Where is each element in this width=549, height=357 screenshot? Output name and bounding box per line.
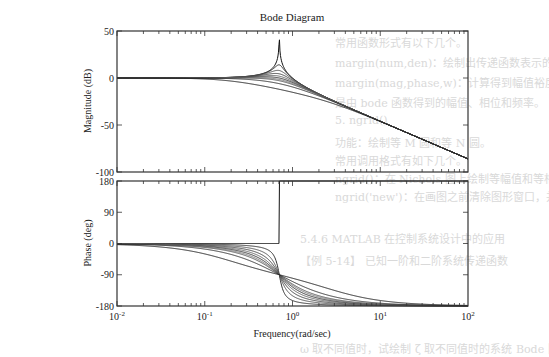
phase-curve: [117, 244, 468, 306]
phase-plot: 180900-90-180 Phase (deg): [82, 176, 468, 312]
magnitude-axis-ticks: 500-50-100: [96, 26, 468, 178]
frequency-xlabel: Frequency(rad/sec): [253, 328, 330, 340]
magnitude-curve: [117, 75, 468, 158]
y-tick-label: 0: [109, 73, 114, 84]
magnitude-curve: [117, 40, 468, 159]
x-tick-label: 102: [461, 310, 475, 322]
x-tick-label: 100: [286, 310, 300, 322]
phase-ylabel: Phase (deg): [82, 220, 94, 267]
y-tick-label: -90: [101, 269, 114, 280]
y-tick-label: -180: [96, 301, 114, 312]
y-tick-label: 90: [104, 207, 114, 218]
phase-curve: [117, 244, 468, 306]
phase-curve: [117, 244, 468, 306]
chart-title: Bode Diagram: [260, 11, 325, 23]
bode-diagram: Bode Diagram 500-50-100 Magnitude (dB) 1…: [0, 0, 549, 357]
magnitude-curve: [117, 78, 468, 159]
magnitude-ylabel: Magnitude (dB): [82, 69, 94, 133]
phase-curve: [117, 244, 468, 306]
magnitude-curve: [117, 78, 468, 159]
x-tick-label: 10-2: [109, 310, 125, 322]
magnitude-curve: [117, 77, 468, 159]
phase-curve: [117, 244, 468, 306]
x-tick-label: 10-1: [197, 310, 213, 322]
phase-curve: [117, 244, 468, 306]
phase-curve: [117, 181, 468, 244]
phase-curves: [117, 181, 468, 306]
y-tick-label: 180: [99, 176, 114, 187]
y-tick-label: 50: [104, 26, 114, 37]
phase-curve: [117, 244, 468, 306]
magnitude-plot: 500-50-100 Magnitude (dB): [82, 26, 468, 178]
phase-curve: [117, 244, 468, 306]
magnitude-axes-frame: [117, 31, 468, 172]
magnitude-curve: [117, 73, 468, 158]
x-tick-label: 101: [374, 310, 388, 322]
magnitude-curve: [117, 78, 468, 159]
y-tick-label: 0: [109, 238, 114, 249]
magnitude-curve: [117, 78, 468, 159]
magnitude-curves: [117, 40, 468, 159]
y-tick-label: -50: [101, 120, 114, 131]
